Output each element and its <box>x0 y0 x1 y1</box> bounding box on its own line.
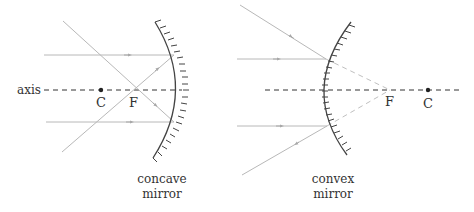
concave-focus-label: F <box>129 95 138 110</box>
convex-reflected-ray-1 <box>240 5 326 59</box>
mirror-diagram: axis <box>0 0 474 212</box>
convex-caption-line1: convex <box>312 172 355 186</box>
convex-mirror-surface <box>324 22 351 155</box>
concave-center-label: C <box>96 95 106 110</box>
concave-mirror-diagram: axis <box>17 20 189 201</box>
axis-label: axis <box>17 83 41 97</box>
convex-center-label: C <box>423 96 433 111</box>
concave-caption-line2: mirror <box>142 187 182 201</box>
convex-caption-line2: mirror <box>313 187 353 201</box>
convex-mirror-hatching <box>322 25 355 151</box>
concave-mirror-hatching <box>153 20 189 162</box>
concave-center-point <box>99 88 103 92</box>
convex-focus-label: F <box>385 94 394 109</box>
concave-caption-line1: concave <box>137 172 186 186</box>
concave-reflected-ray-2 <box>63 21 174 122</box>
convex-virtual-ray-1 <box>326 59 390 90</box>
convex-center-point <box>426 88 430 92</box>
convex-mirror-diagram: F C convex mirror <box>237 5 462 201</box>
convex-reflected-ray-2 <box>242 126 327 175</box>
convex-virtual-ray-2 <box>327 90 390 126</box>
